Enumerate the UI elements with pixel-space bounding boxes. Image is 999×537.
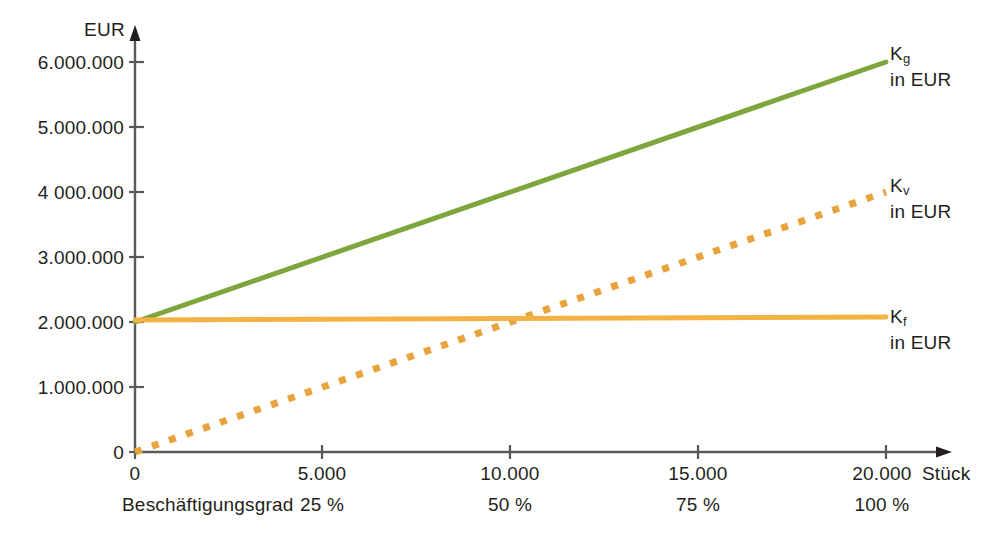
x-tick-label-15000: 15.000 (628, 464, 768, 483)
utilization-tick-50: 50 % (440, 495, 580, 514)
series-label-kf-unit: in EUR (890, 333, 951, 352)
series-label-kv-symbol: K (890, 175, 903, 196)
y-tick-label-6000000: 6.000.000 (4, 53, 124, 72)
series-label-kg: Kg in EUR (890, 44, 951, 89)
y-axis-title: EUR (84, 20, 125, 39)
series-label-kf-subscript: f (903, 314, 907, 329)
y-axis-ticks (129, 62, 144, 452)
x-tick-label-0: 0 (65, 464, 205, 483)
y-tick-label-0: 0 (4, 443, 124, 462)
series-label-kf: Kf in EUR (890, 307, 951, 352)
utilization-tick-100: 100 % (812, 495, 952, 514)
y-tick-label-2000000: 2.000.000 (4, 313, 124, 332)
series-label-kv-subscript: v (903, 183, 910, 198)
y-tick-label-4000000: 4 000.000 (4, 183, 124, 202)
utilization-tick-25: 25 % (252, 495, 392, 514)
x-tick-label-10000: 10.000 (440, 464, 580, 483)
series-label-kg-subscript: g (903, 51, 910, 66)
cost-function-chart: EUR 6.000.000 5.000.000 4 000.000 3.000.… (0, 0, 999, 537)
series-label-kg-unit: in EUR (890, 70, 951, 89)
y-tick-label-1000000: 1.000.000 (4, 378, 124, 397)
series-label-kv: Kv in EUR (890, 176, 951, 221)
series-label-kf-symbol: K (890, 306, 903, 327)
chart-canvas (0, 0, 999, 537)
series-label-kv-unit: in EUR (890, 202, 951, 221)
series-line-kf (135, 317, 886, 320)
series-line-kg (135, 62, 886, 322)
x-axis-unit-label: Stück (922, 464, 971, 483)
utilization-tick-75: 75 % (628, 495, 768, 514)
y-tick-label-3000000: 3.000.000 (4, 248, 124, 267)
y-tick-label-5000000: 5.000.000 (4, 118, 124, 137)
x-axis (135, 447, 952, 458)
x-tick-label-5000: 5.000 (252, 464, 392, 483)
series-label-kg-symbol: K (890, 43, 903, 64)
